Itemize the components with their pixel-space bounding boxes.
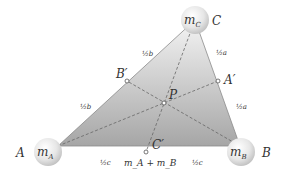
mass-sum-label: m_A + m_B [124,158,177,169]
point-label-C-prime: C′ [152,138,164,152]
point-label-A-prime: A′ [223,73,236,87]
mass-ball-B: mB [227,138,255,166]
point-label-P: P [168,88,178,102]
segment-label-b-upper: ½b [142,50,154,58]
segment-label-a-lower: ½a [236,103,247,111]
centroid-mass-diagram: mA mB mC A B C B′ A′ C′ P ½c ½c ½b ½b ½a… [0,0,288,179]
segment-label-c-right: ½c [192,159,203,167]
point-label-B-prime: B′ [115,67,128,81]
segment-label-a-upper: ½a [216,49,227,57]
mass-ball-C: mC [181,6,209,34]
vertex-label-B: B [261,146,271,160]
vertex-label-A: A [15,146,25,160]
segment-label-b-lower: ½b [80,103,92,111]
mass-ball-A: mA [34,138,62,166]
vertex-label-C: C [212,14,221,28]
segment-label-c-left: ½c [100,159,111,167]
